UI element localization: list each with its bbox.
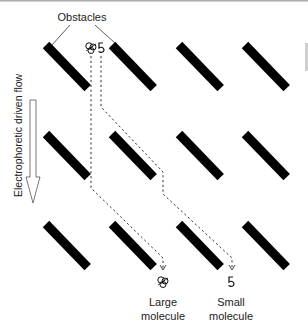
- obstacle-r3-c1: [43, 221, 91, 270]
- obstacle-array: [43, 42, 290, 270]
- obstacle-r1-c2: [109, 42, 157, 91]
- obstacle-r2-c4: [242, 131, 290, 180]
- obstacle-r1-c4: [242, 42, 290, 91]
- small-molecule-icon-end: [229, 277, 235, 286]
- small-molecule-label-line1: Small: [217, 296, 245, 308]
- obstacle-r2-c2: [109, 131, 157, 180]
- obstacle-r3-c2: [109, 221, 157, 270]
- obstacles-callout-right: [95, 25, 115, 43]
- obstacles-label: Obstacles: [58, 11, 107, 23]
- large-molecule-icon-end: [158, 277, 168, 288]
- large-molecule-icon-start: [86, 43, 96, 54]
- dld-diagram: Obstacles Electrophoretic driven flow La…: [0, 0, 308, 333]
- obstacle-r1-c1: [43, 42, 91, 91]
- obstacle-r3-c4: [242, 221, 290, 270]
- small-molecule-icon-start: [99, 43, 105, 52]
- obstacle-r2-c3: [176, 131, 224, 180]
- obstacle-r1-c3: [176, 42, 224, 91]
- obstacle-r2-c1: [43, 131, 91, 180]
- large-molecule-label-line2: molecule: [141, 310, 185, 322]
- small-molecule-label-line2: molecule: [209, 310, 253, 322]
- large-molecule-label-line1: Large: [149, 296, 177, 308]
- flow-direction-arrow: [26, 100, 40, 203]
- obstacles-callout-left: [52, 25, 70, 45]
- flow-label: Electrophoretic driven flow: [12, 73, 24, 197]
